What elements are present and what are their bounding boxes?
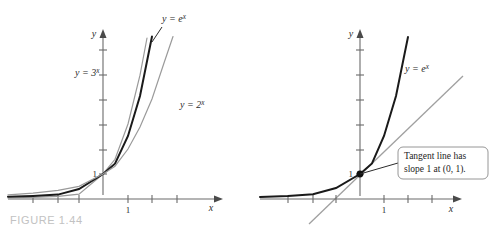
- curve-e-to-x-right: [260, 37, 408, 197]
- svg-text:y = ex: y = ex: [404, 63, 430, 74]
- x-axis-arrow-right: [453, 196, 462, 203]
- curve-label-e-text-right: y = e: [404, 63, 426, 74]
- x-axis-label-left: x: [208, 202, 214, 213]
- curve-label-e-text-left: y = e: [161, 13, 183, 24]
- curve-label-e-exponent-right: x: [425, 63, 430, 71]
- curve-label-2-exponent-left: x: [200, 99, 205, 107]
- callout-line-1: Tangent line has: [404, 151, 466, 161]
- y-tick-label-one-left: 1: [93, 169, 98, 179]
- curve-label-e-to-x-left: y = ex: [152, 13, 187, 42]
- y-tick-label-one-right: 1: [349, 169, 354, 179]
- curve-label-3-to-x-left: y = 3x: [74, 67, 100, 78]
- y-axis-arrow-left: [100, 29, 107, 38]
- curve-label-2-text-left: y = 2: [179, 99, 201, 110]
- x-tick-label-one-left: 1: [126, 205, 131, 215]
- y-axis-label-left: y: [91, 28, 97, 39]
- svg-text:y = 3x: y = 3x: [74, 67, 100, 78]
- callout-line-2: slope 1 at (0, 1).: [404, 164, 466, 175]
- curve-label-3-text-left: y = 3: [74, 67, 96, 78]
- curve-label-2-to-x-left: y = 2x: [179, 99, 205, 110]
- x-axis-label-right: x: [448, 203, 454, 214]
- y-axis-arrow-right: [357, 29, 364, 38]
- curve-label-3-exponent-left: x: [95, 67, 100, 75]
- curve-label-leader-e-left: [152, 27, 162, 42]
- x-axis-arrow-left: [214, 196, 223, 203]
- chart-right-tangent-line: Tangent line has slope 1 at (0, 1). x y …: [246, 0, 493, 244]
- svg-text:y = 2x: y = 2x: [179, 99, 205, 110]
- y-axis-label-right: y: [348, 28, 354, 39]
- curve-3-to-x: [8, 38, 147, 198]
- curve-2-to-x: [8, 37, 173, 195]
- x-tick-label-one-right: 1: [382, 205, 387, 215]
- figure-caption: FIGURE 1.44: [10, 214, 83, 226]
- curve-label-e-exponent-left: x: [182, 13, 187, 21]
- figure-container: x y 1 1 y = ex y = 3x y = 2x: [0, 0, 493, 244]
- svg-text:y = ex: y = ex: [161, 13, 187, 24]
- callout-tangent-note: Tangent line has slope 1 at (0, 1).: [398, 147, 488, 179]
- curve-label-e-to-x-right: y = ex: [404, 63, 430, 74]
- chart-left-exponential-family: x y 1 1 y = ex y = 3x y = 2x: [0, 0, 246, 244]
